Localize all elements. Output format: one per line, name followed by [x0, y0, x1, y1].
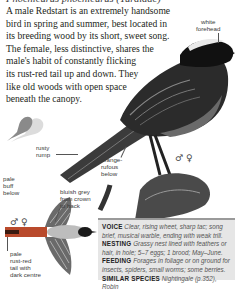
- label-pale-buff-below: pale buff below: [3, 175, 19, 196]
- leader-line: [218, 33, 219, 43]
- male-female-symbol-icon: ♂ ♀: [10, 217, 28, 227]
- label-orange-rufous-below: orange- rufous below: [101, 156, 122, 177]
- latin-name: Phoenicurus phoenicurus (Turdidae): [6, 0, 161, 4]
- info-row-feeding: FEEDING Forages in foliage or on ground …: [102, 257, 233, 274]
- label-bluish-grey: bluish grey from crown to back: [60, 188, 91, 209]
- intro-line: A male Redstart is an extremely handsome: [6, 5, 176, 18]
- label-white-forehead: white forehead: [196, 18, 220, 32]
- label-rusty-rump: rusty rump: [36, 144, 50, 158]
- male-female-symbol-icon: ♂ ♀: [175, 153, 193, 163]
- species-info-box: VOICE Clear, rising wheet, sharp tac; so…: [98, 218, 235, 280]
- label-pale-rust-tail: pale rust-red tail with dark centre: [10, 250, 41, 278]
- leader-line: [7, 237, 8, 251]
- info-row-nesting: NESTING Grassy nest lined with feathers …: [102, 240, 233, 257]
- info-row-voice: VOICE Clear, rising wheet, sharp tac; so…: [102, 223, 233, 240]
- leader-line: [56, 154, 78, 155]
- size-silhouette-icon: [7, 112, 62, 142]
- info-row-similar-species: SIMILAR SPECIES Nightingale (p.352), Rob…: [102, 275, 233, 292]
